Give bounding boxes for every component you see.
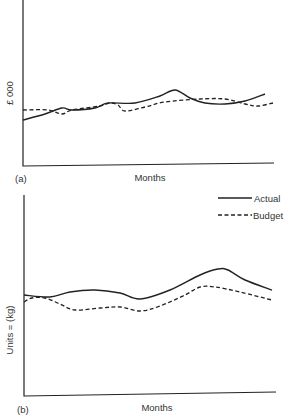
chart-b-tag: (b)	[17, 404, 29, 415]
chart-b-ylabel: Units = (kg)	[4, 306, 15, 355]
chart-b-actual-line	[24, 268, 272, 299]
chart-a-ylabel: £ 000	[4, 81, 15, 105]
chart-figure: £ 000 (a) Months Units = (kg) (b) Months…	[0, 0, 299, 420]
chart-a-actual-line	[23, 90, 265, 120]
chart-b-legend: Actual Budget	[218, 193, 283, 221]
chart-a: £ 000 (a) Months	[4, 0, 274, 184]
chart-a-axes	[23, 0, 274, 166]
legend-actual-label: Actual	[254, 193, 280, 204]
chart-a-tag: (a)	[15, 173, 27, 184]
chart-b-axes	[24, 195, 276, 396]
chart-b-budget-line	[24, 286, 272, 311]
legend-budget-label: Budget	[253, 210, 283, 221]
chart-b-xlabel: Months	[141, 402, 172, 413]
chart-a-xlabel: Months	[134, 172, 165, 183]
chart-a-budget-line	[23, 99, 273, 114]
chart-b: Units = (kg) (b) Months Actual Budget	[4, 193, 283, 415]
